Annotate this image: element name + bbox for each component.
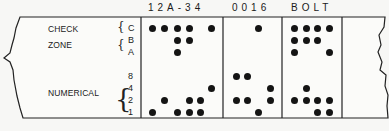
punch-dot (326, 109, 333, 116)
punch-dot (326, 25, 333, 32)
punch-dot (267, 97, 274, 104)
punch-dot (174, 109, 181, 116)
punch-dot (233, 73, 240, 80)
punch-dot (149, 25, 156, 32)
zone-label: ZONE (48, 40, 72, 50)
punch-dot (186, 25, 193, 32)
punch-dot (255, 25, 262, 32)
punch-dot (314, 97, 321, 104)
punch-dot (255, 109, 262, 116)
column-header: BOLT (291, 2, 332, 13)
punch-dot (291, 97, 298, 104)
row-label-2: 2 (128, 96, 133, 105)
punch-dot (326, 97, 333, 104)
punch-dot (186, 109, 193, 116)
punch-dot (303, 97, 310, 104)
punch-dot (267, 85, 274, 92)
punch-dot (208, 25, 215, 32)
row-label-A: A (128, 48, 134, 57)
row-label-4: 4 (128, 84, 133, 93)
punch-dot (186, 37, 193, 44)
column-header: 0016 (232, 2, 270, 13)
check-label: CHECK (48, 24, 78, 34)
punch-dot (197, 109, 204, 116)
punch-dot (303, 85, 310, 92)
punch-dot (244, 97, 251, 104)
punch-dot (291, 49, 298, 56)
check-brace: { (117, 20, 125, 34)
punch-dot (197, 97, 204, 104)
punch-dot (161, 97, 168, 104)
punch-dot (303, 25, 310, 32)
punch-dot (291, 37, 298, 44)
numerical-label: NUMERICAL (48, 88, 99, 98)
row-label-C: C (128, 24, 135, 33)
row-label-8: 8 (128, 72, 133, 81)
punch-dot (303, 37, 310, 44)
row-label-1: 1 (128, 108, 133, 117)
punch-dot (174, 37, 181, 44)
zone-brace: { (117, 38, 125, 52)
punch-dot (208, 85, 215, 92)
punch-dot (233, 97, 240, 104)
punch-dot (174, 49, 181, 56)
punch-dot (244, 73, 251, 80)
punch-dot (326, 49, 333, 56)
punch-dot (314, 109, 321, 116)
column-header: 12A-34 (148, 2, 204, 13)
row-label-B: B (128, 36, 134, 45)
punch-dot (291, 25, 298, 32)
punch-dot (186, 97, 193, 104)
punch-dot (174, 25, 181, 32)
punch-dot (149, 109, 156, 116)
punch-dot (161, 25, 168, 32)
punch-dot (314, 25, 321, 32)
punch-dot (314, 37, 321, 44)
